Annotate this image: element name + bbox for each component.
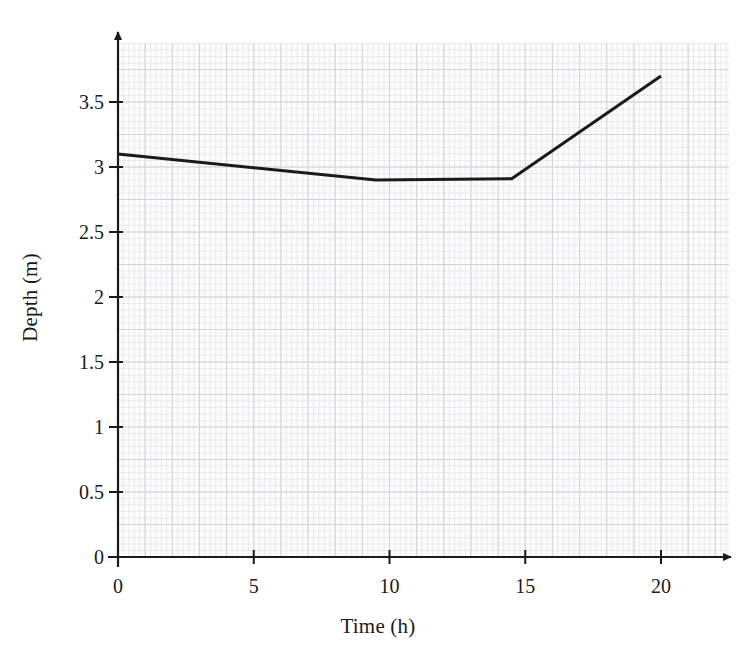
y-tick-label: 1.5 <box>42 351 104 374</box>
y-tick-label: 0 <box>42 546 104 569</box>
y-tick-label: 0.5 <box>42 481 104 504</box>
x-tick-label: 0 <box>113 575 123 598</box>
y-tick-label: 2.5 <box>42 221 104 244</box>
line-chart-plot <box>0 0 756 665</box>
x-tick-label: 10 <box>380 575 400 598</box>
x-tick-label: 15 <box>515 575 535 598</box>
y-axis-label: Depth (m) <box>18 188 43 408</box>
y-tick-label: 3.5 <box>42 91 104 114</box>
x-tick-label: 20 <box>651 575 671 598</box>
chart-figure: 05101520 00.511.522.533.5 Time (h) Depth… <box>0 0 756 665</box>
plot-background <box>118 44 729 558</box>
x-tick-label: 5 <box>249 575 259 598</box>
y-tick-label: 1 <box>42 416 104 439</box>
y-tick-label: 2 <box>42 286 104 309</box>
y-tick-label: 3 <box>42 156 104 179</box>
x-axis-label: Time (h) <box>0 614 756 639</box>
